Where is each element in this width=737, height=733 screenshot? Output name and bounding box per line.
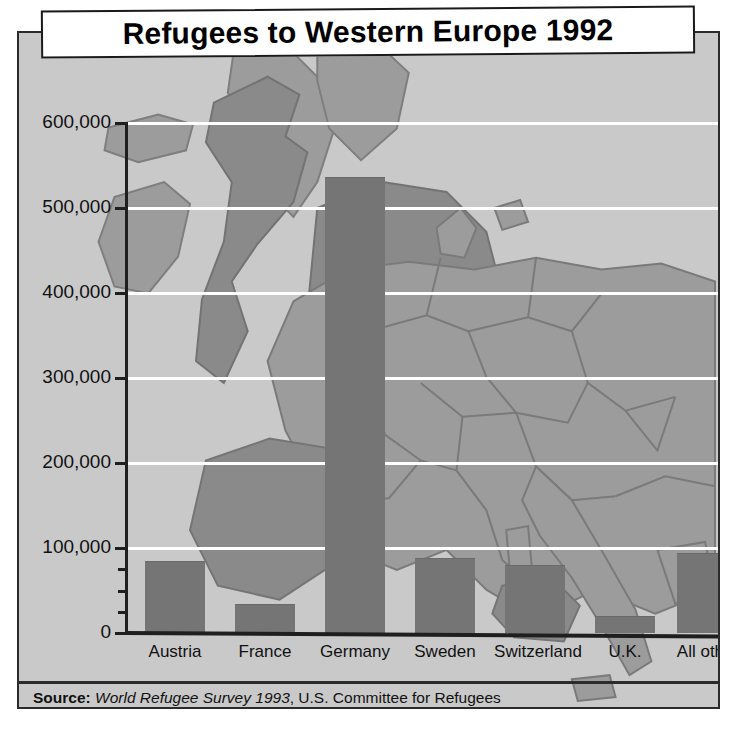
gridline-100000: [127, 547, 720, 550]
x-tick-label-sweden: Sweden: [414, 642, 475, 662]
gridline-600000: [127, 122, 720, 125]
bar-all-other: [677, 553, 720, 633]
y-tick-label-0: 0: [100, 621, 111, 643]
y-tick-500000: [115, 207, 127, 210]
gridline-400000: [127, 292, 720, 295]
y-tick-400000: [115, 292, 127, 295]
y-tick-label-200000: 200,000: [42, 451, 111, 473]
source-label: Source:: [33, 689, 91, 706]
x-tick-label-switzerland: Switzerland: [494, 642, 582, 662]
chart-title-card: Refugees to Western Europe 1992: [41, 5, 695, 58]
chart-figure: 600,000 500,000 400,000 300,000 200,000 …: [0, 0, 737, 733]
y-tick-600000: [115, 122, 127, 125]
y-tick-label-400000: 400,000: [42, 281, 111, 303]
y-tick-200000: [115, 462, 127, 465]
x-tick-label-france: France: [239, 642, 292, 662]
y-tick-300000: [115, 377, 127, 380]
y-tick-0: [115, 632, 127, 635]
bar-uk: [595, 616, 655, 633]
bar-switzerland: [505, 565, 565, 633]
gridline-200000: [127, 462, 720, 465]
y-minor-tick-50000: [118, 590, 127, 593]
source-attribution: , U.S. Committee for Refugees: [290, 689, 501, 706]
x-tick-label-austria: Austria: [149, 642, 202, 662]
bar-germany: [325, 177, 385, 633]
x-tick-label-uk: U.K.: [608, 642, 641, 662]
gridline-500000: [127, 207, 720, 210]
source-divider: [17, 681, 720, 684]
x-tick-label-germany: Germany: [320, 642, 390, 662]
source-note: Source: World Refugee Survey 1993, U.S. …: [33, 689, 501, 707]
y-tick-label-300000: 300,000: [42, 366, 111, 388]
y-tick-label-100000: 100,000: [42, 536, 111, 558]
y-tick-label-500000: 500,000: [42, 196, 111, 218]
bar-sweden: [415, 558, 475, 633]
y-tick-100000: [115, 547, 127, 550]
bar-austria: [145, 561, 205, 633]
source-publication: World Refugee Survey 1993: [95, 689, 290, 706]
y-minor-tick-25000: [118, 611, 127, 614]
bar-france: [235, 604, 295, 633]
y-tick-label-600000: 600,000: [42, 111, 111, 133]
chart-panel: 600,000 500,000 400,000 300,000 200,000 …: [17, 31, 720, 709]
page-title: Refugees to Western Europe 1992: [122, 13, 613, 51]
gridline-300000: [127, 377, 720, 380]
plot-area: 600,000 500,000 400,000 300,000 200,000 …: [127, 122, 720, 633]
x-tick-label-all-other: All other: [677, 642, 720, 662]
y-minor-tick-75000: [118, 568, 127, 571]
